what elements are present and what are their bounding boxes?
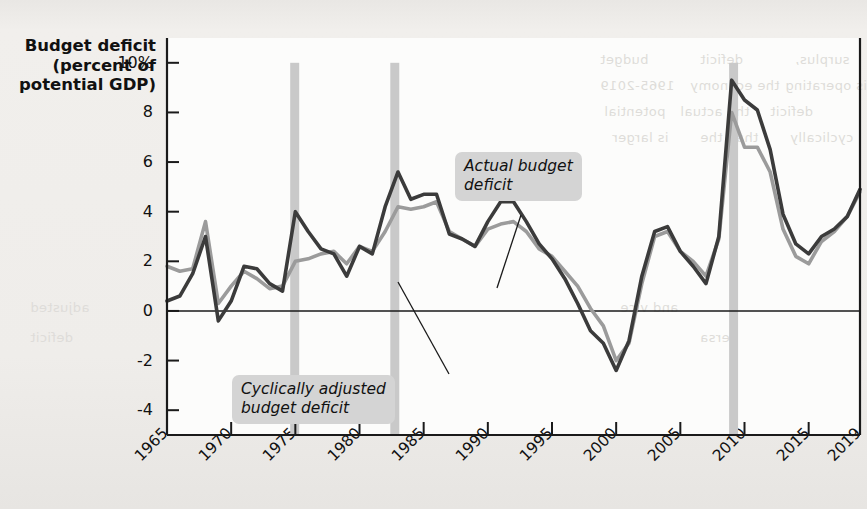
chart-plot-area: [0, 0, 867, 509]
annotation-leader-line-1: [398, 282, 449, 374]
chart-figure: budgetdeficitsurplus,1965-2019the econom…: [0, 0, 867, 509]
annotation-cyclical: Cyclically adjusted budget deficit: [232, 375, 395, 424]
series-line-actual-budget-deficit: [167, 80, 860, 370]
annotation-actual: Actual budget deficit: [455, 152, 582, 201]
